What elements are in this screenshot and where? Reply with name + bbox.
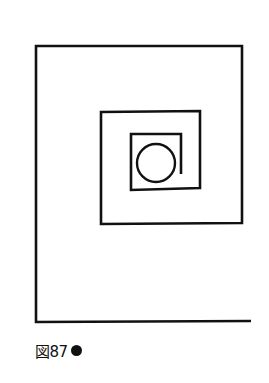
figure-caption: 図87 (35, 340, 82, 361)
square-spiral-path (36, 46, 251, 322)
center-circle (137, 144, 175, 182)
square-spiral-diagram (0, 0, 269, 383)
figure-caption-label: 図87 (35, 340, 68, 361)
filled-circle-icon (71, 345, 82, 356)
